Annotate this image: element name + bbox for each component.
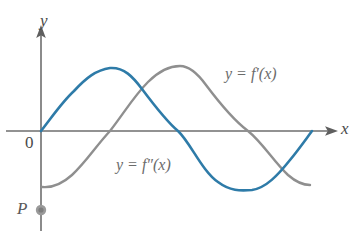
point-p-marker bbox=[36, 205, 46, 215]
graph-figure: y x 0 P y = f′(x) y = f″(x) bbox=[0, 0, 357, 231]
origin-label: 0 bbox=[25, 134, 34, 151]
f-double-prime-curve-label: y = f″(x) bbox=[116, 157, 171, 173]
x-axis bbox=[6, 126, 338, 136]
x-axis-label: x bbox=[341, 120, 349, 137]
f-prime-curve-label: y = f′(x) bbox=[225, 66, 277, 82]
f-prime-curve bbox=[41, 68, 312, 191]
y-axis-label: y bbox=[40, 12, 48, 29]
point-p-label: P bbox=[17, 200, 27, 217]
point-p-dot-inner bbox=[38, 207, 43, 212]
graph-canvas bbox=[0, 0, 357, 231]
